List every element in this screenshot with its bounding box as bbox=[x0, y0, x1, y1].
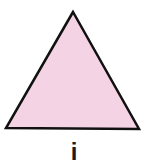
figure-label: i bbox=[0, 140, 148, 164]
triangle-shape bbox=[6, 12, 139, 129]
